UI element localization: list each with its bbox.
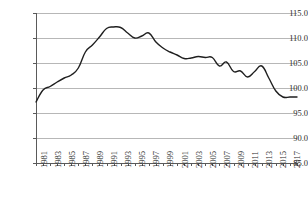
x-axis-tick-mark — [149, 163, 150, 166]
x-axis-tick-mark — [163, 163, 164, 166]
x-axis-tick-mark — [205, 163, 206, 166]
x-axis-tick-mark — [135, 163, 136, 166]
x-axis-tick-mark — [262, 163, 263, 166]
x-axis-tick-mark — [50, 163, 51, 166]
x-axis-tick-mark — [92, 163, 93, 166]
line-chart: 115.0110.0105.0100.095.090.085.0 1981198… — [0, 0, 308, 201]
x-axis-tick-mark — [234, 163, 235, 166]
x-axis-tick-mark — [107, 163, 108, 166]
x-axis-tick-mark — [219, 163, 220, 166]
x-axis-tick-mark — [191, 163, 192, 166]
x-axis-tick-mark — [121, 163, 122, 166]
x-axis-tick-mark — [248, 163, 249, 166]
x-axis-tick-mark — [177, 163, 178, 166]
series-line-index — [36, 13, 297, 163]
x-axis-tick-mark — [64, 163, 65, 166]
x-axis-tick-mark — [36, 163, 37, 166]
x-axis-tick-mark — [290, 163, 291, 166]
x-axis-tick-mark — [78, 163, 79, 166]
x-axis-tick-mark — [276, 163, 277, 166]
